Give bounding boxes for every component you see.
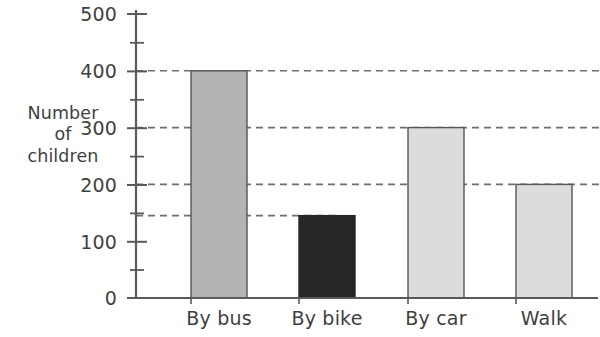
bar-chart: Number of children 500 400 300 200 100 0… (0, 0, 600, 337)
bar-by-bike (299, 216, 355, 298)
x-tick-label-by-bus: By bus (159, 307, 279, 329)
y-axis-title-line-3: children (4, 146, 122, 167)
y-tick-label-300: 300 (57, 117, 117, 139)
x-tick-label-by-car: By car (376, 307, 496, 329)
y-tick-label-400: 400 (57, 60, 117, 82)
x-tick-label-by-bike: By bike (267, 307, 387, 329)
y-tick-label-500: 500 (57, 3, 117, 25)
bar-by-bus (191, 71, 247, 298)
y-tick-label-0: 0 (57, 287, 117, 309)
bar-walk (516, 184, 572, 298)
y-tick-label-200: 200 (57, 174, 117, 196)
x-tick-label-walk: Walk (484, 307, 600, 329)
bar-by-car (408, 128, 464, 298)
y-tick-label-100: 100 (57, 231, 117, 253)
